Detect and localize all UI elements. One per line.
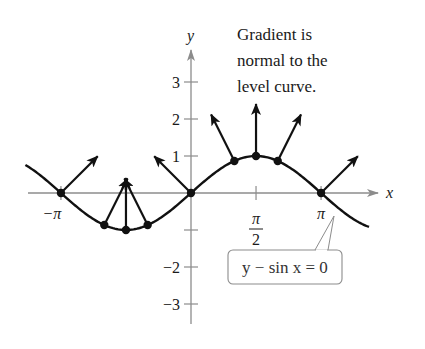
gradient-vector <box>124 179 147 226</box>
curve-point <box>100 221 108 229</box>
x-tick-label: −π <box>43 205 63 222</box>
x-ticks: −ππ2π <box>43 186 327 248</box>
gradient-diagram: 321−2−3 −ππ2π x y y − sin x = 0 <box>0 0 425 349</box>
note-line-3: level curve. <box>237 74 328 100</box>
x-axis-label: x <box>385 184 393 201</box>
note-line-1: Gradient is <box>237 22 328 48</box>
curve-point <box>317 189 325 197</box>
gradient-note: Gradient is normal to the level curve. <box>237 22 328 100</box>
curve-point <box>143 221 151 229</box>
curve-point <box>57 189 65 197</box>
x-tick-label: π <box>317 205 326 222</box>
curve-point <box>187 189 195 197</box>
gradient-vector <box>321 156 358 193</box>
equation-label: y − sin x = 0 <box>242 258 328 277</box>
gradient-vector <box>278 114 301 161</box>
gradient-vector <box>211 114 234 161</box>
equation-callout: y − sin x = 0 <box>228 216 342 284</box>
y-tick-label: −3 <box>163 296 180 313</box>
gradient-vector <box>104 179 127 226</box>
x-tick-label-num: π <box>252 210 261 227</box>
x-tick-label-den: 2 <box>252 231 260 248</box>
y-tick-label: −2 <box>163 259 180 276</box>
curve-point <box>252 152 260 160</box>
y-axis-label: y <box>185 27 195 45</box>
curve-point <box>122 226 130 234</box>
y-tick-label: 1 <box>172 148 180 165</box>
curve-point <box>274 157 282 165</box>
note-line-2: normal to the <box>237 48 328 74</box>
curve-point <box>230 157 238 165</box>
gradient-vectors <box>61 104 358 230</box>
y-tick-label: 3 <box>172 74 180 91</box>
y-tick-label: 2 <box>172 111 180 128</box>
gradient-vector <box>61 156 98 193</box>
